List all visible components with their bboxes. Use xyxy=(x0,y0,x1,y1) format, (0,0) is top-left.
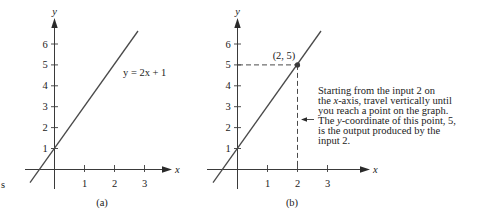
y-axis-label: y xyxy=(234,6,240,17)
y-tick-label: 3 xyxy=(225,101,230,112)
y-axis-label: y xyxy=(51,6,57,17)
y-tick-label: 1 xyxy=(225,143,230,154)
x-axis-arrow-icon xyxy=(360,166,370,172)
x-ticks: 1 2 3 xyxy=(82,165,147,189)
y-ticks: 1 2 3 4 5 6 xyxy=(225,39,241,155)
x-ticks: 1 2 3 xyxy=(265,165,330,189)
y-tick-label: 6 xyxy=(42,39,47,50)
y-tick-label: 4 xyxy=(42,80,48,91)
highlighted-point xyxy=(295,62,300,67)
y-tick-label: 5 xyxy=(225,59,230,70)
edge-text-fragment: s xyxy=(1,179,5,190)
x-tick-label: 2 xyxy=(112,178,117,189)
x-axis-arrow-icon xyxy=(162,166,172,172)
y-tick-label: 5 xyxy=(42,59,47,70)
y-axis-arrow-icon xyxy=(51,18,57,28)
x-axis-label: x xyxy=(174,164,180,175)
panel-b: y x 1 2 3 4 5 6 1 2 3 xyxy=(207,6,456,209)
y-tick-label: 6 xyxy=(225,39,230,50)
y-tick-label: 1 xyxy=(42,143,47,154)
y-tick-label: 3 xyxy=(42,101,47,112)
y-axis-arrow-icon xyxy=(234,18,240,28)
panel-caption: (b) xyxy=(286,197,299,209)
x-tick-label: 1 xyxy=(82,178,87,189)
y-ticks: 1 2 3 4 5 6 xyxy=(42,39,58,155)
point-label: (2, 5) xyxy=(273,50,296,62)
x-tick-label: 1 xyxy=(265,178,270,189)
annotation-arrow-icon xyxy=(301,117,307,121)
panel-a: y x 1 2 3 4 5 6 1 2 3 y = 2x + 1 xyxy=(25,6,180,209)
y-tick-label: 2 xyxy=(225,122,230,133)
figure: s y x 1 2 3 4 5 6 1 2 xyxy=(0,0,487,214)
y-tick-label: 2 xyxy=(42,122,47,133)
x-axis-label: x xyxy=(372,164,378,175)
x-tick-label: 3 xyxy=(142,178,147,189)
x-tick-label: 2 xyxy=(295,178,300,189)
annotation-text: Starting from the input 2 on the x-axis,… xyxy=(318,85,456,146)
x-tick-label: 3 xyxy=(325,178,330,189)
annotation-line: input 2. xyxy=(318,135,350,146)
equation-label: y = 2x + 1 xyxy=(123,67,166,78)
panel-caption: (a) xyxy=(96,197,108,209)
y-tick-label: 4 xyxy=(225,80,231,91)
